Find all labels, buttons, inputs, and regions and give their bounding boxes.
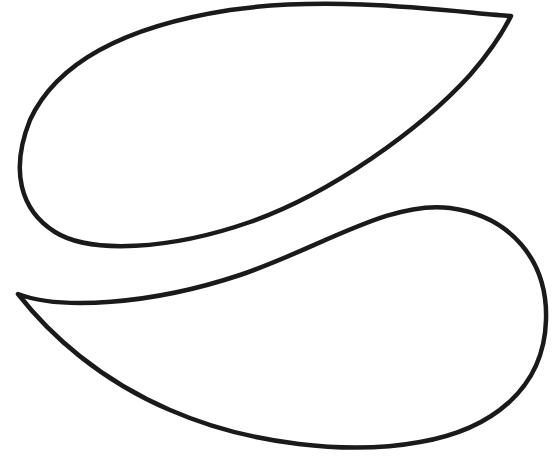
background (0, 0, 552, 462)
drawing-canvas (0, 0, 552, 462)
teardrop-drawing (0, 0, 552, 462)
